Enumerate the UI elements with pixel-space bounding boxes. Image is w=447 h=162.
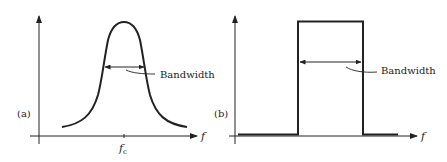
center-frequency-subscript: c: [123, 148, 127, 156]
bandwidth-diagram: Bandwidth (a) f fc Bandwidth (b) f: [0, 0, 447, 162]
panel-b: Bandwidth (b) f: [214, 16, 436, 144]
panel-label-b: (b): [214, 108, 228, 119]
x-axis-label-b: f: [420, 130, 427, 143]
leader-line-a: [126, 70, 155, 74]
rectangular-pulse: [238, 22, 398, 135]
bandwidth-label-a: Bandwidth: [160, 69, 215, 80]
bandwidth-label-b: Bandwidth: [381, 65, 436, 76]
panel-label-a: (a): [17, 108, 31, 119]
panel-a: Bandwidth (a) f fc: [17, 16, 215, 156]
leader-line-b: [346, 67, 377, 72]
center-frequency-label: fc: [118, 142, 127, 156]
x-axis-label-a: f: [200, 130, 207, 143]
